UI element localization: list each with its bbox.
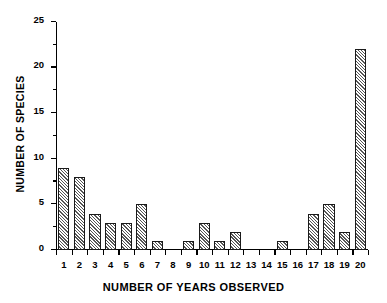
y-tick-label-10: 10 (33, 151, 44, 162)
y-minor-tick-12.5 (53, 135, 56, 136)
x-tick-label-14: 14 (261, 259, 272, 270)
bar-2 (74, 177, 85, 250)
y-tick-label-5: 5 (39, 196, 44, 207)
x-tick-label-6: 6 (139, 259, 144, 270)
x-tick-label-5: 5 (124, 259, 129, 270)
bar-11 (214, 241, 225, 250)
y-axis-line (56, 22, 57, 250)
x-tick-label-18: 18 (324, 259, 335, 270)
bar-chart-figure: NUMBER OF SPECIES 0510152025 12345678910… (0, 0, 387, 303)
x-tick-14 (274, 250, 275, 255)
bar-1 (58, 168, 69, 250)
x-axis-title: NUMBER OF YEARS OBSERVED (0, 281, 387, 293)
y-axis-title: NUMBER OF SPECIES (14, 44, 26, 224)
x-tick-1 (72, 250, 73, 255)
bar-15 (277, 241, 288, 250)
y-minor-tick-22.5 (53, 44, 56, 45)
x-tick-label-10: 10 (199, 259, 210, 270)
bar-9 (183, 241, 194, 250)
x-tick-label-3: 3 (92, 259, 97, 270)
x-tick-label-17: 17 (308, 259, 319, 270)
bar-7 (152, 241, 163, 250)
x-tick-2 (87, 250, 88, 255)
bar-5 (121, 223, 132, 250)
x-tick-18 (337, 250, 338, 255)
y-minor-tick-7.5 (53, 180, 56, 181)
x-tick-0 (56, 250, 57, 255)
bar-12 (230, 232, 241, 250)
x-tick-13 (259, 250, 260, 255)
y-tick-label-20: 20 (33, 59, 44, 70)
y-tick-25: 25 (51, 21, 56, 22)
x-tick-label-8: 8 (170, 259, 175, 270)
x-tick-5 (134, 250, 135, 255)
x-tick-label-2: 2 (77, 259, 82, 270)
x-tick-17 (321, 250, 322, 255)
bar-3 (89, 214, 100, 250)
y-tick-label-0: 0 (39, 242, 44, 253)
x-tick-20 (368, 250, 369, 255)
x-tick-9 (196, 250, 197, 255)
x-tick-label-13: 13 (246, 259, 257, 270)
x-tick-15 (290, 250, 291, 255)
bar-19 (339, 232, 350, 250)
x-tick-label-9: 9 (186, 259, 191, 270)
x-tick-label-15: 15 (277, 259, 288, 270)
bar-6 (136, 204, 147, 250)
bar-17 (308, 214, 319, 250)
y-tick-20: 20 (51, 66, 56, 67)
plot-area: 0510152025 12345678910111213141516171819… (56, 22, 368, 250)
bar-10 (199, 223, 210, 250)
bar-20 (355, 49, 366, 250)
y-tick-15: 15 (51, 112, 56, 113)
x-tick-label-4: 4 (108, 259, 113, 270)
y-tick-5: 5 (51, 203, 56, 204)
x-tick-6 (150, 250, 151, 255)
x-tick-label-19: 19 (339, 259, 350, 270)
x-tick-label-7: 7 (155, 259, 160, 270)
x-tick-label-20: 20 (355, 259, 366, 270)
bar-4 (105, 223, 116, 250)
y-minor-tick-17.5 (53, 89, 56, 90)
x-tick-10 (212, 250, 213, 255)
bar-18 (323, 204, 334, 250)
y-tick-label-15: 15 (33, 105, 44, 116)
x-tick-8 (181, 250, 182, 255)
x-tick-19 (352, 250, 353, 255)
x-tick-16 (306, 250, 307, 255)
x-tick-label-16: 16 (293, 259, 304, 270)
x-tick-label-12: 12 (230, 259, 241, 270)
x-tick-12 (243, 250, 244, 255)
x-tick-4 (118, 250, 119, 255)
y-tick-label-25: 25 (33, 14, 44, 25)
x-tick-label-1: 1 (61, 259, 66, 270)
y-tick-10: 10 (51, 158, 56, 159)
y-minor-tick-2.5 (53, 226, 56, 227)
x-tick-7 (165, 250, 166, 255)
x-tick-label-11: 11 (215, 259, 225, 270)
x-tick-3 (103, 250, 104, 255)
x-tick-11 (228, 250, 229, 255)
